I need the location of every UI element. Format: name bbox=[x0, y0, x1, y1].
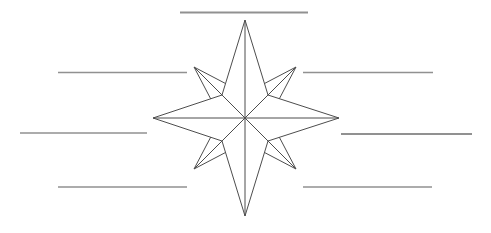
worksheet-page bbox=[0, 0, 491, 233]
compass-rose-figure bbox=[0, 0, 491, 233]
